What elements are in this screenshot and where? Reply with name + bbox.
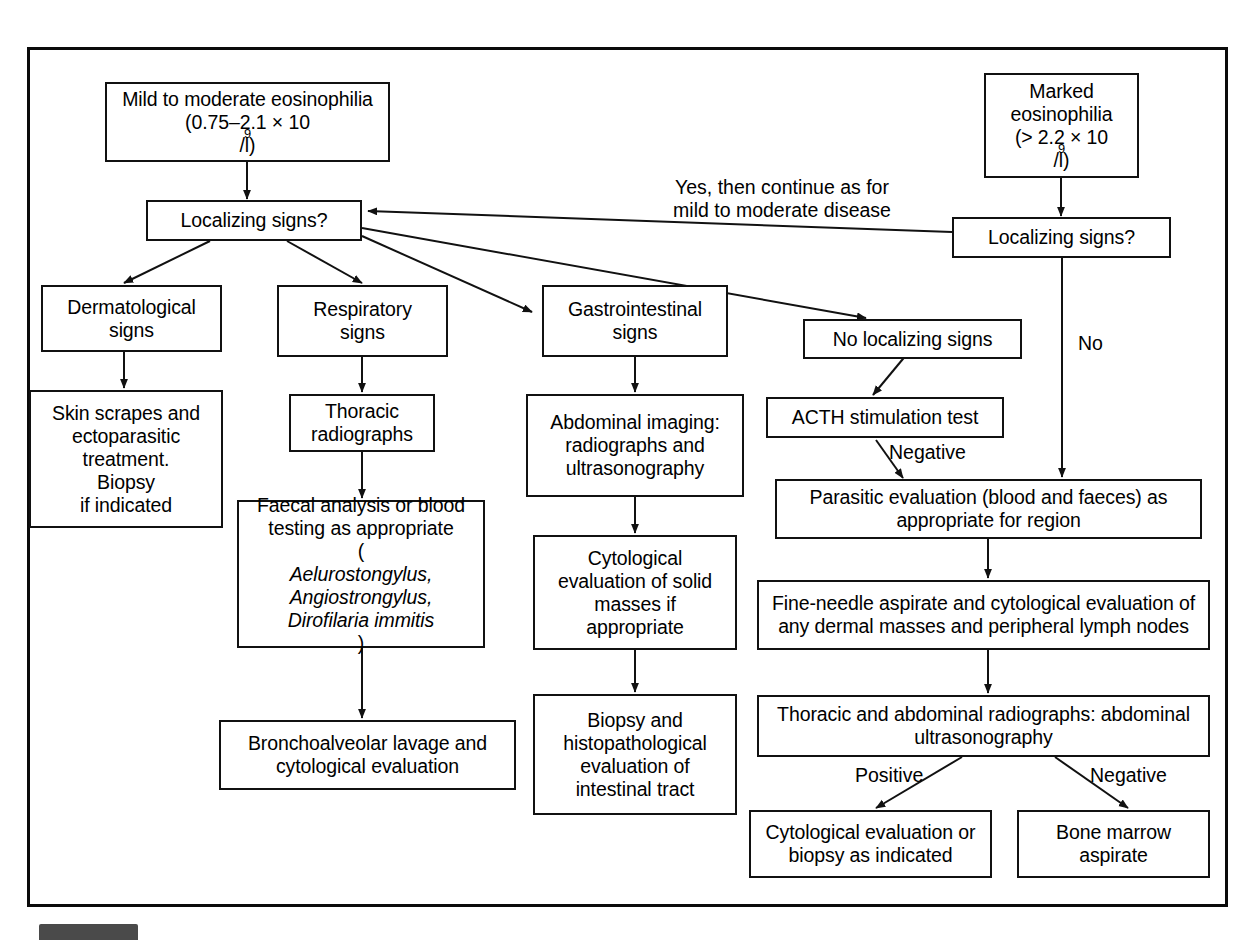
- node-fine-needle-line1: Fine-needle aspirate and cytological eva…: [763, 592, 1204, 615]
- node-thoracic-abdominal-line1: Thoracic and abdominal radiographs: abdo…: [763, 703, 1204, 726]
- node-localizing-signs-left[interactable]: Localizing signs?: [146, 200, 362, 241]
- node-thoracic-radiographs-line2: radiographs: [295, 423, 429, 446]
- edge-label-no: No: [1078, 332, 1126, 355]
- figure-canvas: Mild to moderate eosinophilia (0.75–2.1 …: [0, 0, 1259, 940]
- node-marked-eosinophilia[interactable]: Marked eosinophilia (> 2.2 × 109/l): [984, 73, 1139, 178]
- node-parasitic-evaluation[interactable]: Parasitic evaluation (blood and faeces) …: [775, 479, 1202, 539]
- edge-label-positive: Positive: [855, 764, 955, 787]
- node-gastrointestinal-line2: signs: [548, 321, 722, 344]
- node-bone-marrow-aspirate[interactable]: Bone marrow aspirate: [1017, 810, 1210, 878]
- node-localizing-signs-left-label: Localizing signs?: [152, 209, 356, 232]
- node-bronchoalveolar-line2: cytological evaluation: [225, 755, 510, 778]
- node-parasitic-line1: Parasitic evaluation (blood and faeces) …: [781, 486, 1196, 509]
- node-dermatological-line2: signs: [47, 319, 216, 342]
- node-cytological-or-biopsy-line1: Cytological evaluation or: [755, 821, 986, 844]
- node-skin-scrapes-line4: Biopsy: [35, 471, 217, 494]
- node-marked-line3: (> 2.2 × 109/l): [990, 126, 1133, 172]
- node-respiratory-line1: Respiratory: [283, 298, 442, 321]
- node-gastrointestinal-line1: Gastrointestinal: [548, 298, 722, 321]
- node-cytological-solid-line2: evaluation of solid: [539, 570, 731, 593]
- node-biopsy-histopath-line3: evaluation of: [539, 755, 731, 778]
- node-skin-scrapes-line2: ectoparasitic: [35, 425, 217, 448]
- node-parasitic-line2: appropriate for region: [781, 509, 1196, 532]
- node-biopsy-histopathological[interactable]: Biopsy and histopathological evaluation …: [533, 694, 737, 815]
- node-mild-moderate-line1: Mild to moderate eosinophilia: [111, 88, 384, 111]
- node-abdominal-imaging-line3: ultrasonography: [532, 457, 738, 480]
- node-cytological-or-biopsy[interactable]: Cytological evaluation or biopsy as indi…: [749, 810, 992, 878]
- edge-label-yes-continue: Yes, then continue as for mild to modera…: [614, 176, 950, 222]
- node-no-localizing-signs-label: No localizing signs: [809, 328, 1016, 351]
- node-faecal-line2: testing as appropriate: [243, 517, 479, 540]
- node-bronchoalveolar-lavage[interactable]: Bronchoalveolar lavage and cytological e…: [219, 720, 516, 790]
- node-marked-line2: eosinophilia: [990, 103, 1133, 126]
- node-faecal-line4: Angiostrongylus,: [243, 586, 479, 609]
- node-abdominal-imaging-line1: Abdominal imaging:: [532, 411, 738, 434]
- node-gastrointestinal-signs[interactable]: Gastrointestinal signs: [542, 285, 728, 357]
- node-abdominal-imaging[interactable]: Abdominal imaging: radiographs and ultra…: [526, 394, 744, 497]
- node-localizing-signs-right[interactable]: Localizing signs?: [952, 217, 1171, 258]
- node-thoracic-radiographs-line1: Thoracic: [295, 400, 429, 423]
- node-fine-needle-aspirate[interactable]: Fine-needle aspirate and cytological eva…: [757, 580, 1210, 650]
- node-cytological-solid-masses[interactable]: Cytological evaluation of solid masses i…: [533, 535, 737, 650]
- edge-label-negative-bottom: Negative: [1090, 764, 1200, 787]
- node-skin-scrapes-line5: if indicated: [35, 494, 217, 517]
- node-cytological-or-biopsy-line2: biopsy as indicated: [755, 844, 986, 867]
- node-respiratory-line2: signs: [283, 321, 442, 344]
- node-cytological-solid-line4: appropriate: [539, 616, 731, 639]
- node-mild-moderate-eosinophilia[interactable]: Mild to moderate eosinophilia (0.75–2.1 …: [105, 82, 390, 162]
- node-cytological-solid-line3: masses if: [539, 593, 731, 616]
- node-biopsy-histopath-line1: Biopsy and: [539, 709, 731, 732]
- node-bone-marrow-line1: Bone marrow: [1023, 821, 1204, 844]
- node-thoracic-radiographs[interactable]: Thoracic radiographs: [289, 394, 435, 452]
- node-biopsy-histopath-line2: histopathological: [539, 732, 731, 755]
- node-cytological-solid-line1: Cytological: [539, 547, 731, 570]
- node-faecal-line3: (Aelurostongylus,: [243, 540, 479, 586]
- node-faecal-line5: Dirofilaria immitis): [243, 609, 479, 655]
- node-mild-moderate-line2: (0.75–2.1 × 109/l): [111, 111, 384, 157]
- node-acth-stimulation-test[interactable]: ACTH stimulation test: [766, 397, 1004, 438]
- node-acth-label: ACTH stimulation test: [772, 406, 998, 429]
- node-bone-marrow-line2: aspirate: [1023, 844, 1204, 867]
- node-no-localizing-signs[interactable]: No localizing signs: [803, 319, 1022, 359]
- node-marked-line1: Marked: [990, 80, 1133, 103]
- node-fine-needle-line2: any dermal masses and peripheral lymph n…: [763, 615, 1204, 638]
- node-thoracic-abdominal-radiographs[interactable]: Thoracic and abdominal radiographs: abdo…: [757, 695, 1210, 757]
- node-faecal-line1: Faecal analysis or blood: [243, 494, 479, 517]
- node-skin-scrapes-line3: treatment.: [35, 448, 217, 471]
- node-respiratory-signs[interactable]: Respiratory signs: [277, 285, 448, 357]
- node-faecal-analysis[interactable]: Faecal analysis or blood testing as appr…: [237, 500, 485, 648]
- node-dermatological-line1: Dermatological: [47, 296, 216, 319]
- node-dermatological-signs[interactable]: Dermatological signs: [41, 285, 222, 352]
- node-skin-scrapes[interactable]: Skin scrapes and ectoparasitic treatment…: [29, 390, 223, 528]
- node-bronchoalveolar-line1: Bronchoalveolar lavage and: [225, 732, 510, 755]
- node-skin-scrapes-line1: Skin scrapes and: [35, 402, 217, 425]
- edge-label-negative-acth: Negative: [889, 441, 999, 464]
- node-localizing-signs-right-label: Localizing signs?: [958, 226, 1165, 249]
- node-biopsy-histopath-line4: intestinal tract: [539, 778, 731, 801]
- node-thoracic-abdominal-line2: ultrasonography: [763, 726, 1204, 749]
- caption-marker-tab: [39, 924, 138, 940]
- node-abdominal-imaging-line2: radiographs and: [532, 434, 738, 457]
